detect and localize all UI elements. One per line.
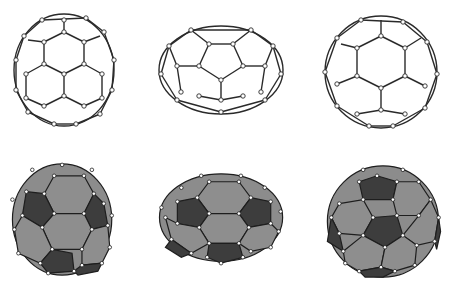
- molecule-1-wireframe: [0, 0, 153, 146]
- molecule-3-wireframe: [305, 0, 458, 146]
- molecule-2-wireframe: [153, 0, 306, 146]
- molecule-1-polyhedron: [0, 146, 153, 292]
- molecule-2-polyhedron: [153, 146, 306, 292]
- molecule-3-polyhedron: [305, 146, 458, 292]
